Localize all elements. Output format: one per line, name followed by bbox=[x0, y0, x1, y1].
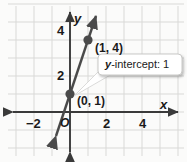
point-label-1-4: (1, 4) bbox=[95, 42, 123, 54]
x-tick-label-minus2: −2 bbox=[26, 117, 41, 130]
x-tick-label-2: 2 bbox=[103, 117, 110, 130]
callout-suffix: -intercept: 1 bbox=[111, 58, 169, 70]
y-tick-label-2: 2 bbox=[57, 69, 64, 82]
coordinate-graph-figure: −2 2 4 2 4 y x O (1, 4) (0, 1) y-interce… bbox=[0, 0, 187, 162]
point-label-0-1: (0, 1) bbox=[77, 95, 105, 107]
y-tick-label-4: 4 bbox=[57, 24, 64, 37]
data-point-1-4 bbox=[83, 35, 92, 44]
x-tick-label-4: 4 bbox=[139, 117, 146, 130]
data-point-0-1 bbox=[65, 89, 74, 98]
x-axis-label: x bbox=[160, 98, 167, 111]
graph-canvas bbox=[0, 0, 187, 162]
y-axis-label: y bbox=[74, 12, 81, 25]
callout-label: y-intercept: 1 bbox=[105, 59, 169, 70]
origin-label: O bbox=[60, 117, 69, 129]
